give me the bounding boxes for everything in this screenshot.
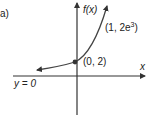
point-label-prefix: (1, 2e <box>105 22 131 33</box>
point-label-suffix: ) <box>134 22 137 33</box>
asymptote-label: y = 0 <box>14 79 36 89</box>
asymptote-text: y = 0 <box>14 78 36 89</box>
x-axis-label: x <box>140 62 145 72</box>
y-axis-label: f(x) <box>83 5 97 15</box>
curve-left-branch <box>37 62 75 70</box>
graph-canvas <box>0 0 147 126</box>
point-label-1-2e3: (1, 2e3) <box>105 23 138 33</box>
point-0-2 <box>73 60 78 65</box>
part-label: a) <box>0 9 9 19</box>
point-label-0-2: (0, 2) <box>83 57 106 67</box>
exponential-graph: a) f(x) x y = 0 (0, 2) (1, 2e3) <box>0 0 147 126</box>
